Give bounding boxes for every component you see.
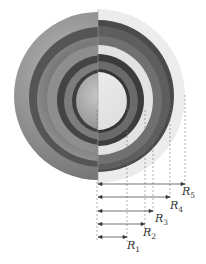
- arrow-r2: [98, 223, 145, 226]
- cutaway-sphere-diagram: R5 R4 R3 R2 R1: [0, 0, 206, 264]
- arrow-r5: [98, 183, 185, 186]
- arrow-r4: [98, 196, 170, 199]
- arrow-r3: [98, 210, 153, 213]
- label-r3: R3: [154, 212, 168, 227]
- arrow-r1: [98, 236, 127, 239]
- label-r4: R4: [169, 199, 183, 214]
- label-r5: R5: [181, 185, 195, 200]
- label-r1: R1: [126, 239, 140, 254]
- label-r2: R2: [142, 226, 156, 241]
